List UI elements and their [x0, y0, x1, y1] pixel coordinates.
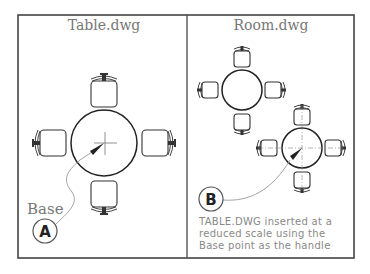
note-line-2: reduced scale using the [199, 228, 325, 239]
chair-right [265, 82, 286, 98]
left-panel-title: Table.dwg [68, 17, 141, 33]
callout-b: B [199, 187, 223, 211]
room-table-1 [197, 46, 286, 135]
base-label: Base [27, 200, 64, 218]
callout-a-letter: A [39, 223, 51, 241]
chair-top [91, 73, 117, 107]
callout-a: A [33, 219, 57, 243]
left-panel: Table.dwg Base A [27, 17, 176, 243]
note-line-1: TABLE.DWG inserted at a [198, 216, 332, 227]
round-table [222, 70, 262, 110]
right-panel: Room.dwg B TABLE.DW [197, 17, 346, 251]
chair-left [197, 82, 218, 98]
chair-left [32, 130, 66, 156]
drawing-canvas: Table.dwg Base A Room.dwg [0, 0, 370, 274]
chair-right [142, 130, 176, 156]
table-block [32, 73, 176, 215]
chair-bottom [234, 114, 250, 135]
chair-top [234, 46, 250, 67]
room-table-inserted [256, 104, 346, 193]
right-panel-title: Room.dwg [233, 17, 308, 33]
leader-line-b [223, 160, 290, 200]
chair-bottom [91, 181, 117, 215]
callout-b-letter: B [205, 191, 216, 209]
insertion-note: TABLE.DWG inserted at a reduced scale us… [198, 216, 332, 251]
note-line-3: Base point as the handle [199, 240, 331, 251]
